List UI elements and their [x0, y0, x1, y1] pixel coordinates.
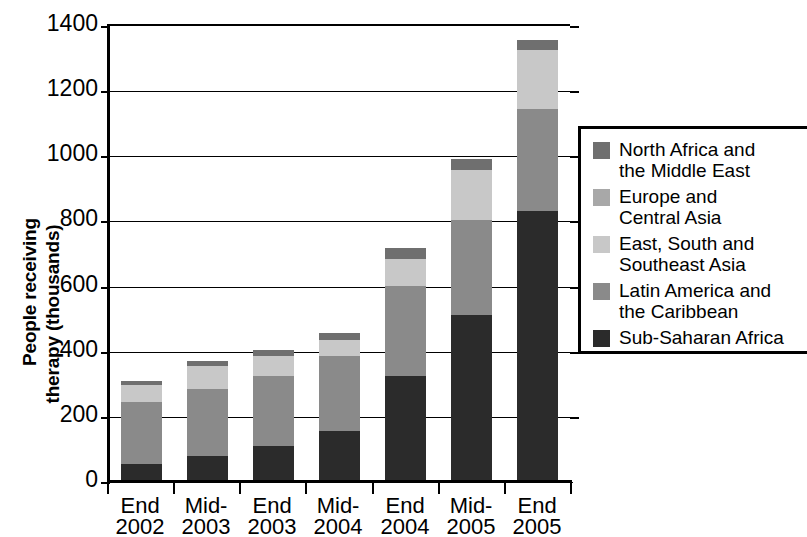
bar-segment-sub-saharan-africa — [517, 211, 558, 480]
legend-swatch-latin-america-caribbean — [593, 283, 610, 300]
y-axis-tick-label: 1400 — [10, 12, 98, 35]
y-axis-tick-label: 1200 — [10, 77, 98, 100]
x-axis-label-mid-2003: Mid-2003 — [173, 495, 239, 537]
bar-segment-sub-saharan-africa — [187, 456, 228, 480]
x-axis-tick — [173, 480, 175, 494]
bar-end-2004 — [385, 248, 426, 480]
bar-segment-sub-saharan-africa — [451, 315, 492, 480]
bar-segment-north-africa-and-the-middle-east — [451, 159, 492, 170]
bar-segment-north-africa-and-the-middle-east — [187, 361, 228, 366]
y-axis-tick-labels: 1400120010008006004002000 — [8, 24, 98, 480]
x-axis-tick — [570, 480, 572, 494]
legend-label-sub-saharan-africa: Sub-Saharan Africa — [619, 327, 784, 348]
y-axis-tick-label: 400 — [10, 338, 98, 361]
bar-segment-latin-america-and-the-caribbean — [319, 356, 360, 431]
legend-label-north-africa-middle-east: North Africa and the Middle East — [619, 139, 755, 181]
legend-item-latin-america-caribbean: Latin America and the Caribbean — [593, 280, 807, 322]
bar-mid-2004 — [319, 333, 360, 480]
bar-segment-latin-america-and-the-caribbean — [121, 402, 162, 464]
bar-segment-north-africa-and-the-middle-east — [121, 381, 162, 385]
legend-swatch-north-africa-middle-east — [593, 142, 610, 159]
x-axis-label-end-2005: End2005 — [504, 495, 570, 537]
y-axis-tick-label: 0 — [10, 468, 98, 491]
bar-segment-north-africa-and-the-middle-east — [319, 333, 360, 340]
x-axis-tick — [107, 480, 109, 494]
bar-segment-latin-america-and-the-caribbean — [385, 286, 426, 376]
y-axis-tick-label: 600 — [10, 273, 98, 296]
bar-segment-east-south-and-southeast-asia — [451, 170, 492, 220]
y-axis-tick-label: 1000 — [10, 142, 98, 165]
bar-segment-sub-saharan-africa — [385, 376, 426, 480]
bar-group — [107, 24, 570, 480]
bar-segment-east-south-and-southeast-asia — [517, 50, 558, 109]
bar-mid-2003 — [187, 361, 228, 480]
bar-segment-north-africa-and-the-middle-east — [253, 350, 294, 357]
y-axis-tick-label: 200 — [10, 403, 98, 426]
x-axis-tick — [239, 480, 241, 494]
x-axis-label-mid-2005: Mid-2005 — [438, 495, 504, 537]
bar-segment-east-south-and-southeast-asia — [187, 366, 228, 389]
x-axis-label-end-2003: End2003 — [239, 495, 305, 537]
x-axis-tick — [305, 480, 307, 494]
x-axis-tick — [504, 480, 506, 494]
legend-item-europe-central-asia: Europe and Central Asia — [593, 186, 807, 228]
bar-segment-latin-america-and-the-caribbean — [253, 376, 294, 446]
y-axis-tick-label: 800 — [10, 207, 98, 230]
legend: North Africa and the Middle EastEurope a… — [578, 126, 807, 354]
legend-swatch-europe-central-asia — [593, 189, 610, 206]
chart-figure: People receiving therapy (thousands) 140… — [0, 0, 807, 537]
bar-segment-east-south-and-southeast-asia — [385, 259, 426, 287]
y-axis-tick-right — [570, 417, 579, 419]
bar-segment-east-south-and-southeast-asia — [121, 385, 162, 402]
bar-end-2003 — [253, 350, 294, 480]
y-axis-tick-right — [570, 26, 579, 28]
x-axis-label-end-2004: End2004 — [372, 495, 438, 537]
bar-end-2002 — [121, 381, 162, 480]
x-axis-label-mid-2004: Mid-2004 — [305, 495, 371, 537]
x-axis-tick — [438, 480, 440, 494]
bar-segment-latin-america-and-the-caribbean — [187, 389, 228, 456]
legend-label-europe-central-asia: Europe and Central Asia — [619, 186, 721, 228]
bar-segment-sub-saharan-africa — [319, 431, 360, 480]
bar-segment-north-africa-and-the-middle-east — [385, 248, 426, 258]
x-axis-tick-labels: End2002Mid-2003End2003Mid-2004End2004Mid… — [107, 495, 570, 537]
legend-label-latin-america-caribbean: Latin America and the Caribbean — [619, 280, 771, 322]
bar-segment-latin-america-and-the-caribbean — [517, 109, 558, 212]
bar-segment-east-south-and-southeast-asia — [253, 356, 294, 376]
x-axis-line — [107, 480, 570, 483]
legend-swatch-sub-saharan-africa — [593, 330, 610, 347]
bar-segment-sub-saharan-africa — [253, 446, 294, 480]
legend-item-sub-saharan-africa: Sub-Saharan Africa — [593, 327, 807, 348]
bar-end-2005 — [517, 40, 558, 480]
y-axis-tick-right — [570, 91, 579, 93]
x-axis-label-end-2002: End2002 — [107, 495, 173, 537]
legend-swatch-east-south-southeast-asia — [593, 236, 610, 253]
bar-mid-2005 — [451, 159, 492, 480]
bar-segment-latin-america-and-the-caribbean — [451, 220, 492, 314]
bar-segment-sub-saharan-africa — [121, 464, 162, 480]
legend-label-east-south-southeast-asia: East, South and Southeast Asia — [619, 233, 754, 275]
bar-segment-east-south-and-southeast-asia — [319, 340, 360, 356]
x-axis-tick — [372, 480, 374, 494]
legend-item-north-africa-middle-east: North Africa and the Middle East — [593, 139, 807, 181]
bar-segment-north-africa-and-the-middle-east — [517, 40, 558, 50]
legend-item-east-south-southeast-asia: East, South and Southeast Asia — [593, 233, 807, 275]
